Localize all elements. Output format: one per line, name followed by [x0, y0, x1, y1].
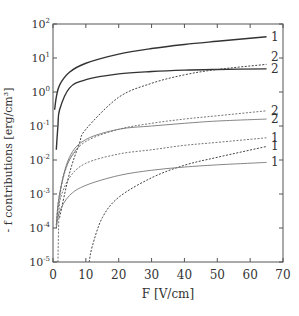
y-tick-label: 10-1 [29, 119, 50, 133]
x-tick-label: 60 [243, 268, 258, 282]
curve-label: 1 [271, 30, 279, 44]
series-line-1 [55, 37, 267, 110]
plot-curves [55, 37, 267, 262]
series-line-2 [56, 69, 266, 150]
log-line-chart: 10210110010-110-210-310-410-5 0102030405… [0, 0, 299, 316]
curve-label: 2 [271, 112, 279, 126]
series-line-1 [56, 162, 266, 228]
y-axis-label: - f contributions [erg/cm³] [2, 88, 15, 233]
curve-end-labels: 12222111 [271, 30, 279, 170]
curve-label: 2 [271, 62, 279, 76]
series-line-1 [56, 138, 266, 228]
series-line-2 [60, 64, 267, 217]
series-line-2 [56, 111, 266, 226]
x-tick-label: 70 [275, 268, 290, 282]
x-tick-label: 0 [49, 268, 57, 282]
y-axis-ticks: 10210110010-110-210-310-410-5 [29, 17, 283, 269]
x-tick-label: 50 [210, 268, 225, 282]
x-tick-label: 20 [111, 268, 126, 282]
plot-frame [53, 24, 283, 262]
series-line-2 [56, 119, 266, 225]
y-tick-label: 101 [32, 51, 50, 65]
y-tick-label: 102 [32, 17, 50, 31]
x-tick-label: 30 [144, 268, 159, 282]
y-tick-label: 10-3 [29, 187, 50, 201]
curve-label: 1 [271, 155, 279, 169]
y-tick-label: 10-5 [29, 255, 50, 269]
x-axis-label: F [V/cm] [142, 287, 194, 301]
series-line-1 [58, 146, 79, 262]
x-tick-label: 10 [78, 268, 93, 282]
curve-label: 1 [271, 139, 279, 153]
x-tick-label: 40 [177, 268, 192, 282]
y-tick-label: 100 [32, 85, 50, 99]
y-tick-label: 10-2 [29, 153, 50, 167]
y-tick-label: 10-4 [29, 221, 50, 235]
